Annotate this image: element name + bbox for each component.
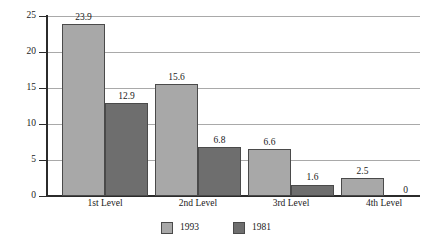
y-tick-mark-10 [39, 124, 47, 125]
legend-swatch-icon-1993 [161, 222, 173, 234]
legend-label-1993: 1993 [180, 223, 199, 233]
legend-item-1981[interactable]: 1981 [233, 222, 271, 234]
bar-value-1993-1st-level: 23.9 [62, 13, 105, 23]
bar-value-1981-1st-level: 12.9 [105, 92, 148, 102]
legend-swatch-icon-1981 [233, 222, 245, 234]
y-axis-label-5: 5 [6, 155, 36, 165]
bar-value-1981-3rd-level: 1.6 [291, 173, 334, 183]
legend-item-1993[interactable]: 1993 [161, 222, 199, 234]
bar-1981-3rd-level[interactable] [291, 185, 334, 197]
bar-1993-4th-level[interactable] [341, 178, 384, 196]
y-axis-label-15: 15 [6, 83, 36, 93]
chart-legend: 1993 1981 [0, 222, 432, 234]
bar-1993-3rd-level[interactable] [248, 149, 291, 197]
bar-chart: 25 20 15 10 5 0 23.9 12.9 15.6 6.8 6.6 1… [0, 0, 432, 248]
legend-label-1981: 1981 [252, 223, 271, 233]
y-axis-label-0: 0 [6, 191, 36, 201]
y-axis-label-10: 10 [6, 119, 36, 129]
x-axis-category-3rd-level: 3rd Level [248, 199, 334, 209]
bar-value-1993-3rd-level: 6.6 [248, 138, 291, 148]
bar-value-1993-2nd-level: 15.6 [155, 73, 198, 83]
bar-value-1981-2nd-level: 6.8 [198, 136, 241, 146]
x-axis-category-4th-level: 4th Level [341, 199, 427, 209]
x-axis-category-2nd-level: 2nd Level [155, 199, 241, 209]
bars-layer: 23.9 12.9 15.6 6.8 6.6 1.6 2.5 0 [47, 16, 420, 196]
y-tick-mark-25 [39, 16, 47, 17]
y-tick-mark-5 [39, 160, 47, 161]
bar-value-1993-4th-level: 2.5 [341, 167, 384, 177]
bar-value-1981-4th-level: 0 [384, 186, 427, 196]
y-axis-label-20: 20 [6, 47, 36, 57]
bar-1981-1st-level[interactable] [105, 103, 148, 196]
y-tick-mark-20 [39, 52, 47, 53]
y-tick-mark-15 [39, 88, 47, 89]
bar-1981-2nd-level[interactable] [198, 147, 241, 196]
bar-1993-1st-level[interactable] [62, 24, 105, 196]
y-axis-label-25: 25 [6, 11, 36, 21]
y-tick-mark-0 [39, 196, 47, 197]
bar-1993-2nd-level[interactable] [155, 84, 198, 196]
x-axis-category-1st-level: 1st Level [62, 199, 148, 209]
